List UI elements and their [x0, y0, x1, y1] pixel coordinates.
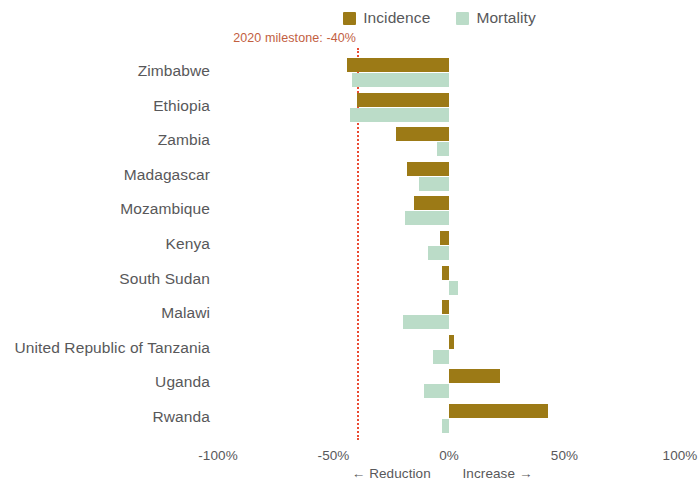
category-label: South Sudan — [0, 270, 210, 288]
x-tick-label: 50% — [551, 448, 578, 463]
bar-group — [218, 162, 680, 197]
category-label: Madagascar — [0, 166, 210, 184]
category-label: Uganda — [0, 373, 210, 391]
value-axis-direction-labels: ← ReductionIncrease → — [218, 466, 680, 486]
category-label: Ethiopia — [0, 97, 210, 115]
bar-group — [218, 93, 680, 128]
bar-mortality[interactable] — [405, 211, 449, 225]
category-label: Malawi — [0, 304, 210, 322]
category-label: Zimbabwe — [0, 62, 210, 80]
bar-group — [218, 58, 680, 93]
bar-incidence[interactable] — [449, 404, 548, 418]
bar-group — [218, 196, 680, 231]
legend-item-incidence[interactable]: Incidence — [343, 9, 430, 27]
bar-group — [218, 335, 680, 370]
bar-group — [218, 404, 680, 439]
bar-incidence[interactable] — [442, 266, 449, 280]
bar-incidence[interactable] — [440, 231, 449, 245]
bar-mortality[interactable] — [424, 384, 449, 398]
plot-area — [218, 56, 680, 436]
category-label: Rwanda — [0, 408, 210, 426]
malaria-progress-bar-chart: Incidence Mortality ZimbabweEthiopiaZamb… — [0, 0, 699, 486]
bar-incidence[interactable] — [396, 127, 449, 141]
bar-group — [218, 300, 680, 335]
category-label: United Republic of Tanzania — [0, 339, 210, 357]
category-label: Zambia — [0, 131, 210, 149]
milestone-annotation-label: 2020 milestone: -40% — [233, 31, 356, 45]
bar-mortality[interactable] — [403, 315, 449, 329]
x-tick-label: 0% — [439, 448, 459, 463]
x-tick-label: -50% — [318, 448, 350, 463]
category-label: Kenya — [0, 235, 210, 253]
legend-label-incidence: Incidence — [363, 9, 430, 27]
bar-mortality[interactable] — [449, 281, 458, 295]
bar-incidence[interactable] — [414, 196, 449, 210]
x-tick-label: 100% — [663, 448, 698, 463]
chart-legend: Incidence Mortality — [0, 9, 699, 27]
bar-mortality[interactable] — [437, 142, 449, 156]
bar-group — [218, 127, 680, 162]
bar-group — [218, 369, 680, 404]
bar-mortality[interactable] — [419, 177, 449, 191]
square-swatch-icon — [343, 12, 356, 25]
bar-incidence[interactable] — [449, 335, 454, 349]
bar-mortality[interactable] — [433, 350, 449, 364]
bar-mortality[interactable] — [350, 108, 449, 122]
x-axis-increase-label: Increase → — [462, 466, 532, 481]
value-axis-ticks: -100%-50%0%50%100% — [218, 448, 680, 468]
bar-incidence[interactable] — [407, 162, 449, 176]
bar-mortality[interactable] — [352, 73, 449, 87]
legend-item-mortality[interactable]: Mortality — [456, 9, 535, 27]
bar-group — [218, 266, 680, 301]
square-swatch-icon — [456, 12, 469, 25]
x-axis-reduction-label: ← Reduction — [352, 466, 431, 481]
bar-incidence[interactable] — [442, 300, 449, 314]
bar-incidence[interactable] — [347, 58, 449, 72]
x-tick-label: -100% — [198, 448, 238, 463]
category-axis-labels: ZimbabweEthiopiaZambiaMadagascarMozambiq… — [0, 56, 210, 436]
bar-mortality[interactable] — [442, 419, 449, 433]
bar-group — [218, 231, 680, 266]
legend-label-mortality: Mortality — [476, 9, 535, 27]
bar-mortality[interactable] — [428, 246, 449, 260]
bar-incidence[interactable] — [449, 369, 500, 383]
category-label: Mozambique — [0, 200, 210, 218]
bar-incidence[interactable] — [357, 93, 449, 107]
